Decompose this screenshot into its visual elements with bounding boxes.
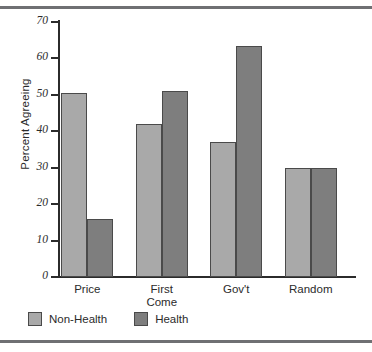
top-divider-rule [0, 6, 372, 9]
y-tick-label: 10 [8, 233, 48, 245]
y-tick-mark [51, 130, 58, 132]
bar-first-come-non-health [136, 124, 162, 277]
bottom-divider-rule [0, 340, 372, 343]
chart-legend: Non-HealthHealth [28, 312, 206, 326]
y-tick-mark [51, 21, 58, 23]
x-tick-label-line: Come [117, 296, 207, 309]
dark-gray-swatch [134, 312, 148, 326]
x-tick-label-line: Random [266, 283, 356, 296]
bar-gov-t-health [236, 46, 262, 277]
y-tick-mark [51, 276, 58, 278]
legend-label: Non-Health [49, 313, 107, 325]
x-tick-label-random: Random [266, 283, 356, 296]
legend-item-health[interactable]: Health [134, 312, 188, 326]
legend-item-non-health[interactable]: Non-Health [28, 312, 107, 326]
bar-random-non-health [285, 168, 311, 277]
light-gray-swatch [28, 312, 42, 326]
y-tick-mark [51, 203, 58, 205]
y-tick-label: 70 [8, 14, 48, 26]
bar-chart-figure: 010203040506070 Percent Agreeing PriceFi… [0, 0, 372, 352]
y-tick-mark [51, 94, 58, 96]
y-tick-label: 0 [8, 269, 48, 281]
bar-first-come-health [162, 91, 188, 277]
y-axis-label: Percent Agreeing [19, 59, 31, 189]
y-tick-mark [51, 240, 58, 242]
bar-price-health [87, 219, 113, 277]
y-tick-mark [51, 167, 58, 169]
bar-random-health [311, 168, 337, 277]
legend-label: Health [155, 313, 188, 325]
y-tick-mark [51, 57, 58, 59]
y-tick-label: 20 [8, 196, 48, 208]
plot-area [58, 22, 356, 277]
bar-gov-t-non-health [210, 142, 236, 277]
bar-price-non-health [61, 93, 87, 277]
